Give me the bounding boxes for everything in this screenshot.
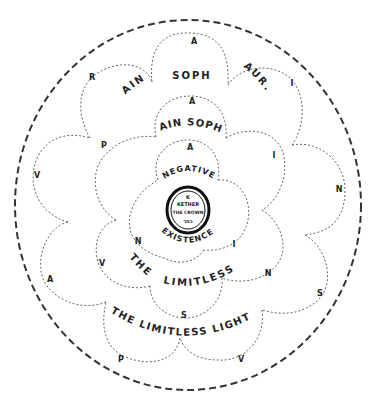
- hebrew-ktr-label: כתר: [183, 218, 192, 224]
- inner-letter-i: I: [233, 240, 236, 249]
- kether-medallion: K KETHER THE CROWN כתר: [167, 187, 209, 233]
- outer-letter-a-top: A: [191, 37, 198, 46]
- limitless-light-label: THE LIMITLESS LIGHT: [109, 305, 252, 338]
- middle-letter-i: I: [273, 151, 276, 160]
- soph-label: SOPH: [172, 70, 211, 81]
- ain-soph-label: AIN SOPH: [157, 116, 224, 134]
- ain-label: AIN: [119, 71, 147, 96]
- middle-letter-a: A: [189, 97, 196, 106]
- outer-letter-a-left: A: [47, 275, 54, 284]
- kether-label: KETHER: [177, 201, 199, 207]
- outer-letter-n: N: [336, 185, 343, 194]
- outer-letter-r: R: [89, 73, 95, 82]
- middle-letter-v: V: [99, 259, 106, 268]
- middle-letter-p: P: [101, 141, 107, 150]
- outer-letter-s: S: [317, 289, 323, 298]
- negative-label: NEGATIVE: [161, 164, 217, 181]
- inner-letter-a: A: [187, 143, 194, 152]
- the-label: THE: [127, 251, 154, 278]
- the-crown-label: THE CROWN: [173, 210, 204, 215]
- kabbalah-veils-diagram: K KETHER THE CROWN כתר NEGATIVE EXISTENC…: [0, 0, 376, 407]
- outer-letter-v-left: V: [34, 171, 41, 180]
- inner-letter-n: N: [135, 237, 142, 246]
- outer-letter-v-bottom: V: [238, 355, 245, 364]
- middle-letter-n: N: [265, 269, 272, 278]
- middle-letter-s: S: [181, 311, 187, 320]
- limitless-label: LIMITLESS: [163, 262, 237, 288]
- outer-letter-p: P: [118, 355, 124, 364]
- aur-label: AUR.: [242, 60, 274, 94]
- outer-letter-i: I: [291, 79, 294, 88]
